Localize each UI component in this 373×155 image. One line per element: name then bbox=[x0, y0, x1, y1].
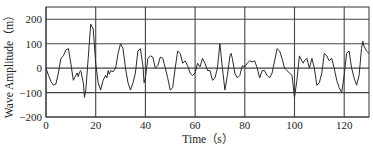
y-axis-title: Wave Amplitude（m） bbox=[3, 10, 16, 118]
x-tick-label: 100 bbox=[286, 119, 303, 131]
x-axis-title: Time（s） bbox=[182, 133, 232, 145]
x-tick-label: 0 bbox=[43, 119, 49, 131]
y-tick-label: −100 bbox=[19, 87, 42, 99]
x-tick-label: 60 bbox=[190, 119, 202, 131]
y-tick-label: −200 bbox=[19, 111, 42, 123]
x-tick-label: 20 bbox=[90, 119, 102, 131]
y-tick-label: 200 bbox=[26, 13, 43, 25]
x-tick-label: 80 bbox=[239, 119, 251, 131]
y-tick-label: 0 bbox=[37, 62, 43, 74]
y-tick-label: 100 bbox=[26, 38, 43, 50]
chart-background bbox=[0, 0, 373, 155]
x-tick-label: 120 bbox=[336, 119, 353, 131]
wave-amplitude-chart: −200−1000100200 020406080100120 Time（s） … bbox=[0, 0, 373, 155]
x-tick-label: 40 bbox=[140, 119, 152, 131]
